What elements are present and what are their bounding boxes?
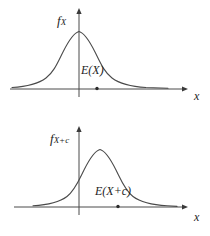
y-axis-arrowhead xyxy=(76,8,81,14)
expectation-shift-figure: fX x E(X) fX+c x E(X+c) xyxy=(0,0,210,236)
chart-canvas-bottom xyxy=(0,118,210,236)
x-axis-label-top: x xyxy=(194,89,199,104)
chart-canvas-top xyxy=(0,0,210,118)
x-axis-arrowhead xyxy=(182,204,188,209)
chart-panel-top: fX x E(X) xyxy=(0,0,210,118)
mean-annotation-top: E(X) xyxy=(81,63,104,78)
mean-dot-marker xyxy=(116,205,119,208)
y-axis-label-subscript: X+c xyxy=(54,135,70,145)
mean-dot-marker xyxy=(95,87,98,90)
x-axis-arrowhead xyxy=(182,86,188,91)
y-axis-label-bottom: fX+c xyxy=(50,131,69,147)
y-axis-label-top: fX xyxy=(57,13,66,29)
density-curve-fx xyxy=(12,32,168,89)
x-axis-label-bottom: x xyxy=(194,210,199,225)
y-axis-label-subscript: X xyxy=(61,17,67,27)
chart-panel-bottom: fX+c x E(X+c) xyxy=(0,118,210,236)
mean-annotation-bottom: E(X+c) xyxy=(95,184,131,199)
y-axis-arrowhead xyxy=(76,126,81,132)
